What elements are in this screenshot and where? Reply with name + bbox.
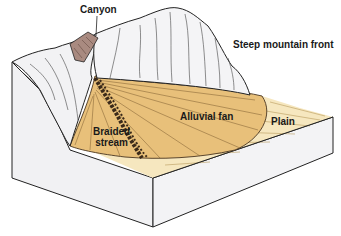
braided-stream-label-line1: Braided	[93, 126, 130, 137]
alluvial-fan-label: Alluvial fan	[180, 112, 233, 122]
braided-stream-label-line2: stream	[93, 137, 130, 148]
steep-mountain-front-label: Steep mountain front	[233, 40, 334, 50]
braided-stream-label: Braided stream	[93, 126, 130, 148]
plain-label: Plain	[271, 117, 295, 127]
alluvial-fan-diagram: Canyon Steep mountain front Alluvial fan…	[0, 0, 341, 236]
canyon-label: Canyon	[80, 5, 117, 15]
